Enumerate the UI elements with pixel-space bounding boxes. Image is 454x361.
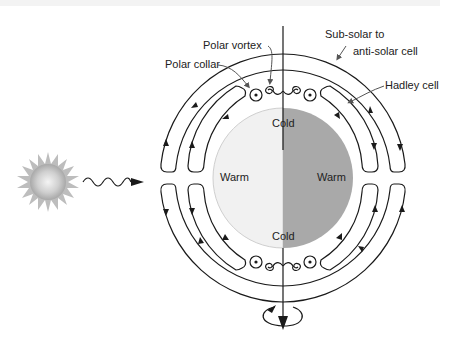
wavy-arrow-icon — [83, 178, 144, 186]
label-cold-top: Cold — [272, 117, 295, 129]
label-polar-vortex: Polar vortex — [203, 39, 262, 51]
label-cold-bottom: Cold — [272, 230, 295, 242]
sub-solar-leader — [338, 46, 346, 58]
label-polar-collar: Polar collar — [165, 58, 220, 70]
label-warm-right: Warm — [317, 171, 346, 183]
label-warm-left: Warm — [220, 171, 249, 183]
label-sub-solar-line1: Sub-solar to — [325, 28, 384, 40]
label-sub-solar-line2: anti-solar cell — [353, 45, 418, 57]
axis-arrow-icon — [278, 316, 288, 330]
label-hadley-cell: Hadley cell — [385, 79, 439, 91]
sun-icon — [17, 152, 79, 212]
circulation-diagram: Sub-solar to anti-solar cell Hadley cell… — [0, 0, 454, 361]
polar-vortex-leader — [268, 46, 272, 82]
